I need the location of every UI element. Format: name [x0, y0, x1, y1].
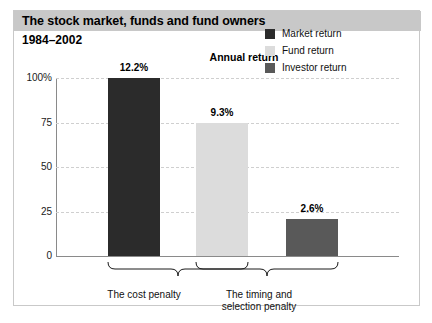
legend-item[interactable]: Investor return [265, 59, 361, 76]
bar-value-label: 9.3% [182, 107, 262, 118]
cost-penalty-label: The cost penalty [84, 289, 204, 301]
y-tick-label: 75 [6, 117, 52, 128]
bar-fund-return[interactable] [196, 123, 248, 257]
brace-path [196, 262, 338, 276]
page-title: The stock market, funds and fund owners [22, 14, 265, 28]
legend-swatch-icon [265, 46, 275, 56]
date-range-subtitle: 1984–2002 [22, 33, 82, 47]
chart-figure: The stock market, funds and fund owners … [13, 10, 420, 306]
legend-item[interactable]: Fund return [265, 42, 361, 59]
y-tick-label: 25 [6, 206, 52, 217]
x-axis-line [56, 256, 399, 257]
bar-market-return[interactable] [108, 78, 160, 256]
plot-area: 0255075100% 12.2%9.3%2.6% [56, 78, 399, 256]
legend-label: Market return [282, 28, 341, 39]
legend-item[interactable]: Market return [265, 25, 361, 42]
y-tick-label: 50 [6, 161, 52, 172]
legend-label: Investor return [282, 62, 346, 73]
legend-swatch-icon [265, 63, 275, 73]
y-tick-label: 0 [6, 250, 52, 261]
brace-path [108, 262, 248, 276]
timing-penalty-label-line2: selection penalty [199, 301, 319, 313]
legend-label: Fund return [282, 45, 334, 56]
timing-penalty-label-line1: The timing and [199, 289, 319, 301]
chart-legend: Market returnFund returnInvestor return [265, 25, 361, 76]
bar-investor-return[interactable] [286, 219, 338, 256]
y-tick-label: 100% [6, 72, 52, 83]
bar-value-label: 12.2% [94, 62, 174, 73]
bar-value-label: 2.6% [272, 203, 352, 214]
legend-swatch-icon [265, 29, 275, 39]
